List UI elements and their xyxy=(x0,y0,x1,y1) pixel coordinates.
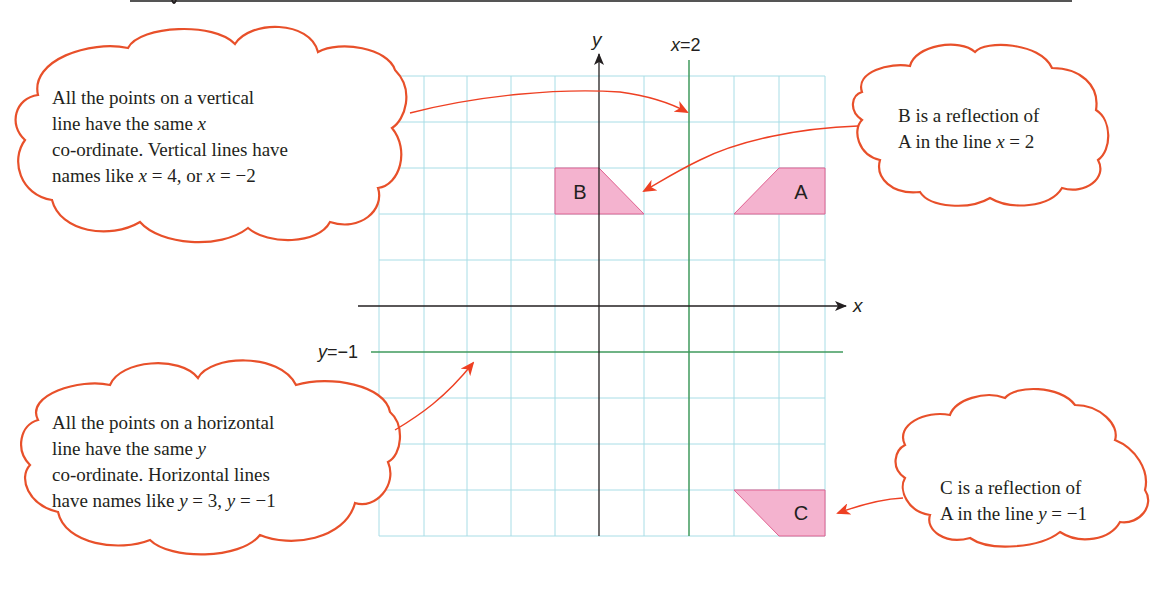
reflection-b-suffix: = 2 xyxy=(1005,131,1035,152)
vertical-info-line-2-text: line have the same xyxy=(52,113,198,134)
reflection-b-line-2: A in the line x = 2 xyxy=(898,129,1039,155)
vertical-line-label-rest: =2 xyxy=(680,35,701,55)
vertical-info-line-2: line have the same x xyxy=(52,111,288,137)
horizontal-info-line-2-text: line have the same xyxy=(52,438,198,459)
vertical-line-label: x=2 xyxy=(671,35,701,55)
vertical-line-label-var: x xyxy=(671,35,680,55)
arrow-to-vertical-line xyxy=(410,91,687,113)
horizontal-line-label: y=−1 xyxy=(318,342,358,362)
horizontal-line-label-var: y xyxy=(318,342,327,362)
reflection-b-text: B is a reflection of A in the line x = 2 xyxy=(898,103,1039,155)
horizontal-info-line-4: have names like y = 3, y = −1 xyxy=(52,488,276,514)
shape-b-label: B xyxy=(565,182,595,202)
vertical-info-text: All the points on a vertical line have t… xyxy=(52,85,288,189)
reflection-c-prefix: A in the line xyxy=(940,503,1038,524)
y-axis-label: y xyxy=(592,30,602,50)
vertical-info-line-1: All the points on a vertical xyxy=(52,85,288,111)
horizontal-info-eq-1: = 3, xyxy=(188,490,227,511)
arrow-to-shape-c xyxy=(838,498,903,513)
shape-c-label: C xyxy=(786,503,816,523)
arrow-to-horizontal-line xyxy=(395,363,473,430)
horizontal-info-var-1: y xyxy=(179,490,187,511)
vertical-info-line-4-text: names like xyxy=(52,165,139,186)
reflection-c-line-1: C is a reflection of xyxy=(940,475,1087,501)
vertical-info-line-3: co-ordinate. Vertical lines have xyxy=(52,137,288,163)
reflection-diagram: y x x=2 y=−1 B A C All the points on a v… xyxy=(0,0,1176,596)
reflection-c-text: C is a reflection of A in the line y = −… xyxy=(940,475,1087,527)
horizontal-info-line-1: All the points on a horizontal xyxy=(52,410,276,436)
horizontal-info-line-4-text: have names like xyxy=(52,490,179,511)
horizontal-info-line-2: line have the same y xyxy=(52,436,276,462)
reflection-c-line-2: A in the line y = −1 xyxy=(940,501,1087,527)
horizontal-info-text: All the points on a horizontal line have… xyxy=(52,410,276,514)
reflection-b-var: x xyxy=(996,131,1004,152)
horizontal-line-label-rest: =−1 xyxy=(327,342,358,362)
horizontal-info-line-2-var: y xyxy=(198,438,206,459)
reflection-c-suffix: = −1 xyxy=(1047,503,1087,524)
horizontal-info-eq-2: = −1 xyxy=(235,490,275,511)
vertical-info-line-2-var: x xyxy=(198,113,206,134)
shape-a-label: A xyxy=(786,182,816,202)
reflection-b-prefix: A in the line xyxy=(898,131,996,152)
arrow-to-shape-b xyxy=(644,126,858,191)
vertical-info-var-2: x xyxy=(207,165,215,186)
horizontal-info-var-2: y xyxy=(227,490,235,511)
horizontal-info-line-3: co-ordinate. Horizontal lines xyxy=(52,462,276,488)
vertical-info-eq-1: = 4, or xyxy=(147,165,207,186)
vertical-info-eq-2: = −2 xyxy=(215,165,255,186)
reflection-b-line-1: B is a reflection of xyxy=(898,103,1039,129)
x-axis-label: x xyxy=(853,296,863,316)
vertical-info-var-1: x xyxy=(139,165,147,186)
reflection-c-var: y xyxy=(1038,503,1046,524)
vertical-info-line-4: names like x = 4, or x = −2 xyxy=(52,163,288,189)
